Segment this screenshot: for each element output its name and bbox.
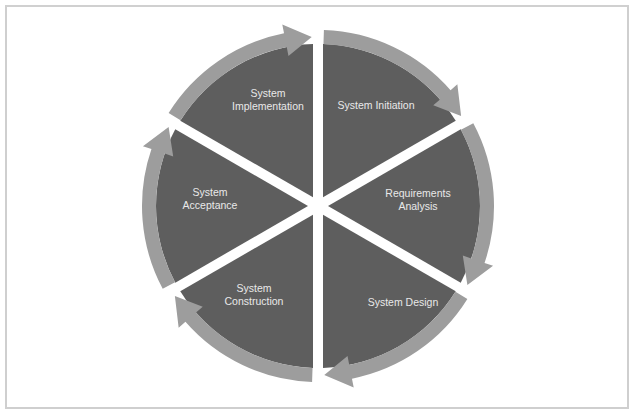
phase-label-initiation: System Initiation bbox=[337, 99, 414, 111]
phase-label-design: System Design bbox=[368, 296, 439, 308]
cycle-diagram: System InitiationRequirementsAnalysisSys… bbox=[0, 0, 636, 416]
